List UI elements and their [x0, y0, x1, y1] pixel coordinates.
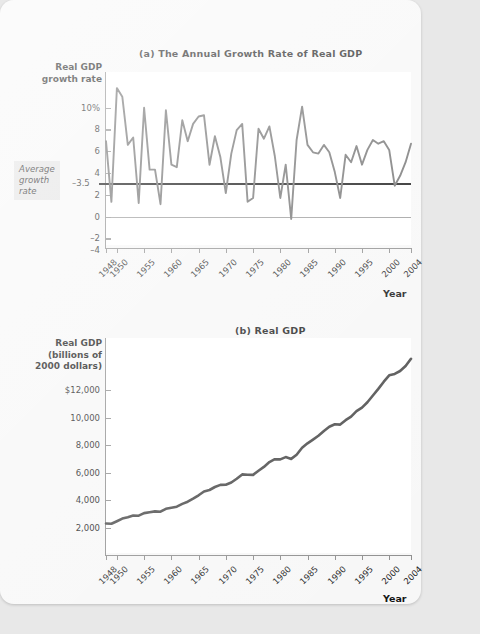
textbook-page: (a) The Annual Growth Rate of Real GDP R…: [0, 0, 421, 604]
chart-b-x-tick: [308, 555, 309, 560]
chart-b-x-tick: [389, 555, 390, 560]
chart-b-x-tick: [411, 555, 412, 560]
chart-a-x-tick: [280, 248, 281, 253]
chart-a-series-svg: [0, 0, 421, 300]
chart-a-growth-line: [106, 88, 411, 219]
chart-a-x-tick: [226, 248, 227, 253]
chart-a-x-tick: [171, 248, 172, 253]
chart-b-x-tick: [171, 555, 172, 560]
chart-b-x-tick: [335, 555, 336, 560]
chart-b-panel: (b) Real GDP Real GDP (billions of 2000 …: [0, 310, 421, 604]
chart-a-x-tick: [117, 248, 118, 253]
chart-b-x-axis-title: Year: [383, 593, 407, 604]
chart-b-series-svg: [0, 310, 421, 604]
chart-b-x-tick: [253, 555, 254, 560]
chart-a-x-tick: [362, 248, 363, 253]
chart-a-x-tick: [335, 248, 336, 253]
chart-b-x-tick: [106, 555, 107, 560]
chart-b-x-tick: [144, 555, 145, 560]
chart-a-x-axis-title: Year: [383, 288, 407, 299]
chart-b-x-tick: [362, 555, 363, 560]
chart-b-x-tick: [280, 555, 281, 560]
chart-a-x-tick: [199, 248, 200, 253]
chart-a-x-tick: [308, 248, 309, 253]
chart-b-x-tick: [117, 555, 118, 560]
chart-a-panel: (a) The Annual Growth Rate of Real GDP R…: [0, 0, 421, 300]
chart-a-x-tick: [253, 248, 254, 253]
chart-a-x-tick: [411, 248, 412, 253]
chart-a-x-tick: [389, 248, 390, 253]
chart-a-x-tick: [106, 248, 107, 253]
chart-b-x-tick: [226, 555, 227, 560]
chart-b-x-tick: [199, 555, 200, 560]
chart-b-gdp-line: [106, 359, 411, 524]
chart-a-x-tick: [144, 248, 145, 253]
